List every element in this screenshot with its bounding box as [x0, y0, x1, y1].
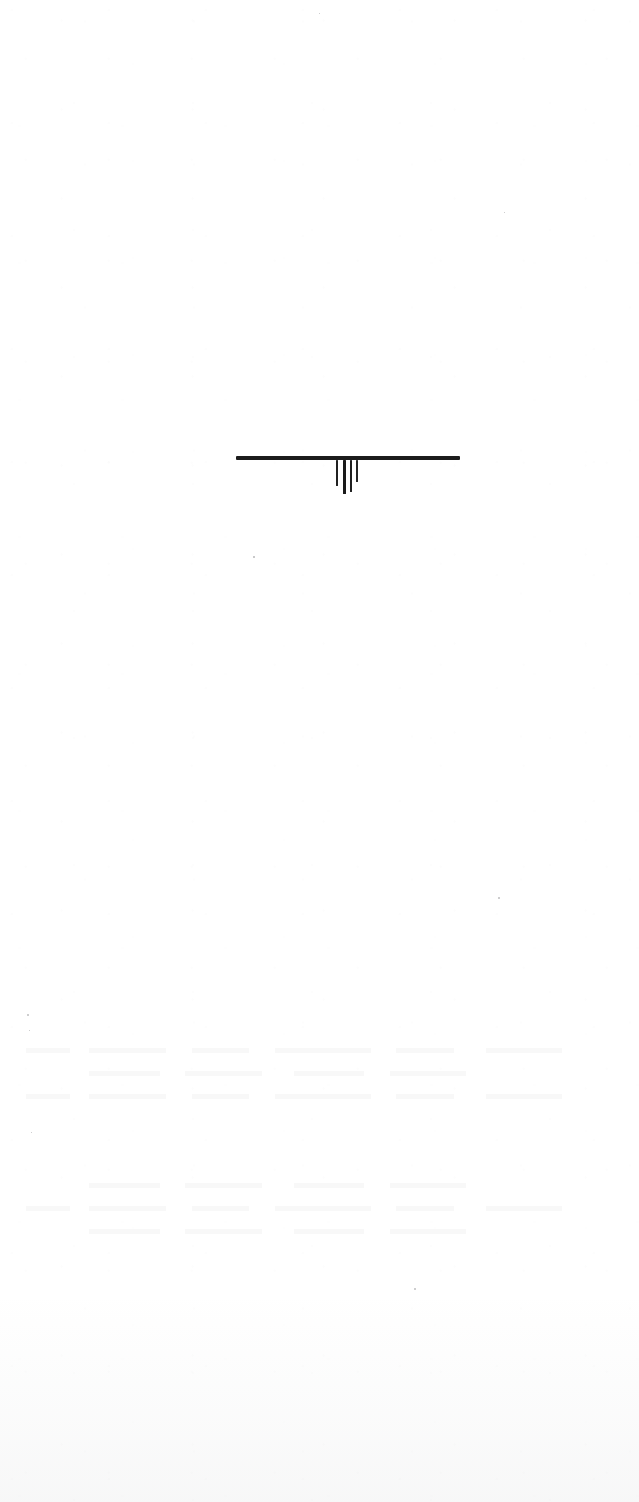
tick-stroke-3	[350, 460, 352, 492]
tick-stroke-4	[356, 460, 358, 482]
scanned-page	[0, 0, 639, 1502]
tick-stroke-1	[336, 460, 338, 486]
horizontal-rule	[236, 456, 460, 460]
tick-stroke-2	[343, 460, 346, 494]
paper-background	[0, 0, 639, 1502]
